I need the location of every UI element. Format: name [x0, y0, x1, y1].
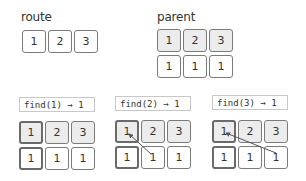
- value-cell: 1: [212, 146, 236, 169]
- parent-value-cell: 1: [157, 55, 181, 78]
- find-call-label: find(2) → 1: [115, 96, 191, 111]
- key-cell: 2: [238, 120, 262, 143]
- value-cell: 1: [167, 146, 191, 169]
- key-cell: 1: [19, 121, 43, 144]
- find-call-label: find(1) → 1: [19, 97, 95, 112]
- route-label: route: [21, 10, 52, 24]
- key-cell: 1: [115, 120, 139, 143]
- key-cell: 1: [212, 120, 236, 143]
- value-cell: 1: [45, 147, 69, 170]
- key-cell: 3: [71, 121, 95, 144]
- value-cell: 1: [71, 147, 95, 170]
- value-cell: 1: [19, 147, 43, 170]
- parent-value-cell: 1: [183, 55, 207, 78]
- key-cell: 2: [45, 121, 69, 144]
- value-cell: 1: [115, 146, 139, 169]
- value-cell: 1: [238, 146, 262, 169]
- parent-key-cell: 1: [157, 29, 181, 52]
- route-cell: 2: [48, 30, 72, 53]
- find-call-label: find(3) → 1: [212, 95, 288, 110]
- parent-key-cell: 3: [209, 29, 233, 52]
- key-cell: 3: [264, 120, 288, 143]
- route-cell: 1: [22, 30, 46, 53]
- parent-value-cell: 1: [209, 55, 233, 78]
- parent-label: parent: [157, 10, 195, 24]
- key-cell: 3: [167, 120, 191, 143]
- route-cell: 3: [74, 30, 98, 53]
- value-cell: 1: [141, 146, 165, 169]
- value-cell: 1: [264, 146, 288, 169]
- key-cell: 2: [141, 120, 165, 143]
- parent-key-cell: 2: [183, 29, 207, 52]
